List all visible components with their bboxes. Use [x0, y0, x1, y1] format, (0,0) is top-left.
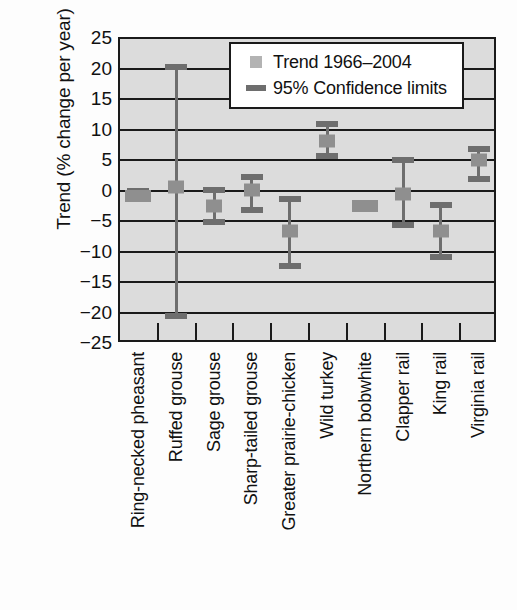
x-tick-label-ruffed-grouse: Ruffed grouse: [166, 352, 187, 462]
x-tick-label-clapper-rail: Clapper rail: [393, 352, 414, 442]
x-axis-tick-labels: Ring-necked pheasant Ruffed grouse Sage …: [0, 0, 517, 610]
x-tick-label-ring-necked-pheasant: Ring-necked pheasant: [128, 352, 149, 528]
x-tick-label-sage-grouse: Sage grouse: [204, 352, 225, 452]
chart-figure: Trend (% change per year) 25 20 15 10 5 …: [0, 0, 517, 610]
x-tick-label-greater-prairie-chicken: Greater prairie-chicken: [279, 352, 300, 530]
x-tick-label-wild-turkey: Wild turkey: [317, 352, 338, 439]
x-tick-label-sharp-tailed-grouse: Sharp-tailed grouse: [241, 352, 262, 505]
x-tick-label-virginia-rail: Virginia rail: [468, 352, 489, 438]
x-tick-label-king-rail: King rail: [430, 352, 451, 415]
x-tick-label-northern-bobwhite: Northern bobwhite: [355, 352, 376, 496]
